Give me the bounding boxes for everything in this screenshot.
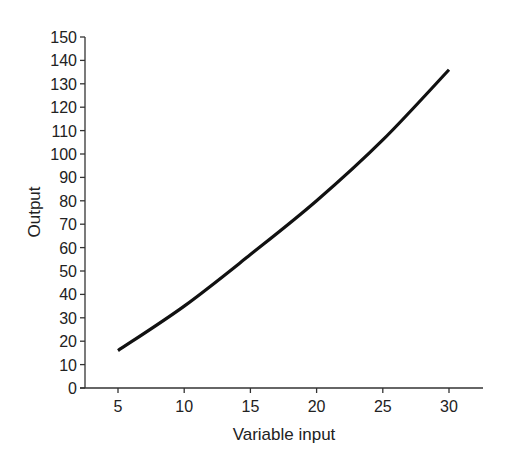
x-axis: 51015202530 (80, 388, 483, 415)
y-tick-label: 80 (59, 193, 77, 210)
y-tick-label: 140 (50, 52, 77, 69)
y-tick-label: 130 (50, 76, 77, 93)
x-tick-label: 20 (308, 398, 326, 415)
y-tick-label: 110 (51, 123, 77, 140)
y-tick-label: 70 (59, 216, 77, 233)
x-tick-label: 10 (175, 398, 193, 415)
y-tick-label: 20 (59, 333, 77, 350)
line-chart: 0102030405060708090100110120130140150 51… (0, 0, 505, 463)
y-axis: 0102030405060708090100110120130140150 (50, 29, 85, 397)
y-tick-label: 120 (50, 99, 77, 116)
y-tick-label: 30 (59, 310, 77, 327)
y-tick-label: 90 (59, 169, 77, 186)
y-tick-label: 40 (59, 286, 77, 303)
y-tick-label: 50 (59, 263, 77, 280)
y-tick-label: 150 (50, 29, 77, 46)
y-tick-label: 10 (59, 357, 77, 374)
y-axis-title: Output (25, 186, 44, 237)
y-tick-label: 60 (59, 240, 77, 257)
plot-area (118, 70, 449, 351)
x-axis-title: Variable input (233, 425, 336, 444)
x-tick-label: 15 (242, 398, 260, 415)
x-tick-label: 5 (114, 398, 123, 415)
x-tick-label: 25 (374, 398, 392, 415)
y-tick-label: 100 (50, 146, 77, 163)
series-line (118, 70, 449, 351)
y-tick-label: 0 (68, 380, 77, 397)
x-tick-label: 30 (440, 398, 458, 415)
